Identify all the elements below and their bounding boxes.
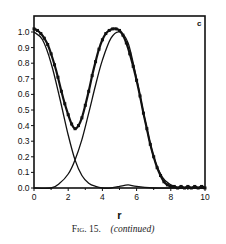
data-marker [97, 48, 100, 51]
series-line-2 [34, 32, 205, 188]
line-chart: 02468100.00.10.20.30.40.50.60.70.80.91.0… [0, 0, 226, 224]
data-marker [39, 32, 42, 35]
data-marker [87, 90, 90, 93]
y-tick-label: 0.0 [18, 183, 30, 193]
y-tick-label: 1.0 [18, 27, 30, 37]
data-marker [60, 90, 63, 93]
data-marker [108, 29, 111, 32]
y-tick-label: 0.4 [18, 121, 30, 131]
plot-border [34, 16, 205, 188]
panel-label: c [197, 19, 202, 28]
y-tick-label: 0.5 [18, 105, 30, 115]
x-tick-label: 4 [100, 192, 105, 202]
data-marker [67, 113, 70, 116]
data-marker [36, 29, 39, 32]
y-tick-label: 0.2 [18, 152, 30, 162]
axis-layer: 02468100.00.10.20.30.40.50.60.70.80.91.0 [18, 27, 210, 202]
data-marker [70, 123, 73, 126]
data-marker [91, 74, 94, 77]
data-marker [46, 43, 49, 46]
figure-caption: Fig. 15. (continued) [0, 224, 226, 234]
y-tick-label: 0.1 [18, 167, 30, 177]
y-tick-label: 0.8 [18, 58, 30, 68]
figure-label: Fig. 15. [72, 224, 101, 234]
data-marker [63, 102, 66, 105]
data-marker [43, 37, 46, 40]
x-axis-label: r [117, 209, 122, 221]
data-marker [104, 32, 107, 35]
data-marker [74, 127, 77, 130]
x-tick-label: 8 [168, 192, 173, 202]
y-tick-label: 0.7 [18, 74, 30, 84]
series-layer [33, 27, 207, 189]
x-tick-label: 6 [134, 192, 139, 202]
plot-frame [34, 16, 205, 188]
x-tick-label: 2 [66, 192, 71, 202]
y-tick-label: 0.9 [18, 43, 30, 53]
data-marker [101, 38, 104, 41]
data-marker [50, 52, 53, 55]
x-tick-label: 0 [32, 192, 37, 202]
y-tick-label: 0.6 [18, 89, 30, 99]
series-line-1 [34, 29, 205, 188]
series-line-3 [34, 32, 205, 189]
data-marker [94, 60, 97, 63]
x-tick-label: 10 [200, 192, 210, 202]
data-marker [80, 116, 83, 119]
data-marker [111, 27, 114, 30]
data-marker [77, 124, 80, 127]
caption-text: (continued) [111, 224, 155, 234]
data-marker [115, 27, 118, 30]
data-marker [84, 104, 87, 107]
y-tick-label: 0.3 [18, 136, 30, 146]
data-marker [33, 27, 36, 30]
data-marker [56, 76, 59, 79]
data-marker [53, 63, 56, 66]
